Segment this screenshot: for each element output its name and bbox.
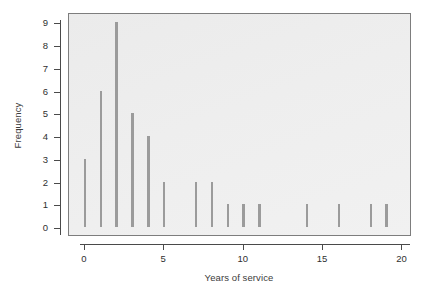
y-axis-tick [54, 23, 60, 24]
x-axis-tick-label: 15 [307, 254, 337, 264]
bar [100, 91, 102, 228]
y-axis-tick-label: 9 [34, 18, 48, 28]
y-axis-tick-label: 4 [34, 132, 48, 142]
x-axis-tick [163, 244, 164, 250]
x-axis-tick-label: 10 [228, 254, 258, 264]
y-axis-tick-label: 5 [34, 109, 48, 119]
bar [84, 159, 86, 227]
y-axis-tick-label: 0 [34, 223, 48, 233]
x-axis-tick-label: 20 [386, 254, 416, 264]
y-axis-tick [54, 69, 60, 70]
x-axis-tick-label: 5 [148, 254, 178, 264]
bar [211, 182, 213, 228]
y-axis-tick [54, 92, 60, 93]
y-axis-tick [54, 46, 60, 47]
y-axis-tick-label: 1 [34, 200, 48, 210]
bar [163, 182, 165, 228]
y-axis-title: Frequency [6, 0, 30, 250]
x-axis-tick [243, 244, 244, 250]
bar [385, 204, 387, 227]
x-axis-title: Years of service [68, 272, 410, 283]
x-axis-tick [401, 244, 402, 250]
bar [370, 204, 372, 227]
y-axis-tick [54, 114, 60, 115]
y-axis-tick-label: 7 [34, 64, 48, 74]
x-axis-tick-label: 0 [69, 254, 99, 264]
chart-figure: Frequency 0123456789 05101520 Years of s… [0, 0, 430, 305]
y-axis-tick-label: 8 [34, 41, 48, 51]
bar [147, 136, 149, 227]
plot-panel [68, 13, 411, 236]
bar [131, 113, 133, 227]
y-axis-tick-label: 6 [34, 87, 48, 97]
bar [195, 182, 197, 228]
y-axis-tick [54, 183, 60, 184]
y-axis-tick [54, 205, 60, 206]
x-axis-line [80, 244, 410, 245]
y-axis-tick [54, 228, 60, 229]
x-axis-tick [84, 244, 85, 250]
x-axis-tick [322, 244, 323, 250]
y-axis-line [60, 20, 61, 235]
y-axis-tick [54, 137, 60, 138]
bar [258, 204, 260, 227]
y-axis-title-text: Frequency [13, 102, 24, 148]
bar [242, 204, 244, 227]
bar [227, 204, 229, 227]
bar [306, 204, 308, 227]
y-axis-tick-label: 3 [34, 155, 48, 165]
bar [338, 204, 340, 227]
bar [115, 22, 117, 227]
y-axis-tick [54, 160, 60, 161]
y-axis-tick-label: 2 [34, 178, 48, 188]
